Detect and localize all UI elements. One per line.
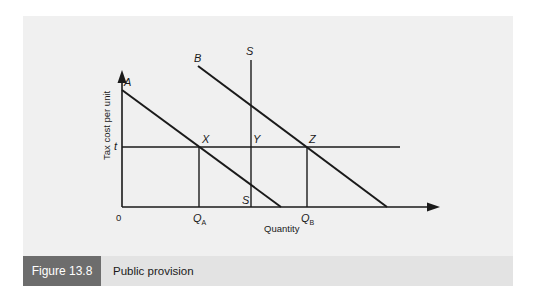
- label-b: B: [194, 52, 201, 64]
- demand-curve-a: [122, 90, 281, 207]
- label-t: t: [114, 140, 118, 152]
- figure-number: Figure 13.8: [23, 256, 101, 286]
- label-s-top: S: [246, 45, 254, 57]
- caption-bar: Figure 13.8 Public provision: [23, 256, 513, 286]
- label-s-bottom: S: [242, 194, 250, 206]
- tick-qa: QA: [193, 212, 207, 226]
- label-a: A: [123, 76, 131, 88]
- label-y: Y: [253, 133, 261, 145]
- y-axis-title: Tax cost per unit: [101, 90, 112, 160]
- demand-curve-b: [198, 66, 387, 207]
- tick-qb: QB: [301, 212, 315, 226]
- label-x: X: [201, 133, 210, 145]
- x-axis-arrow-icon: [427, 203, 440, 212]
- label-z: Z: [308, 133, 317, 145]
- x-axis-title: Quantity: [264, 223, 300, 234]
- figure-title: Public provision: [113, 256, 194, 286]
- origin-label: 0: [116, 212, 121, 223]
